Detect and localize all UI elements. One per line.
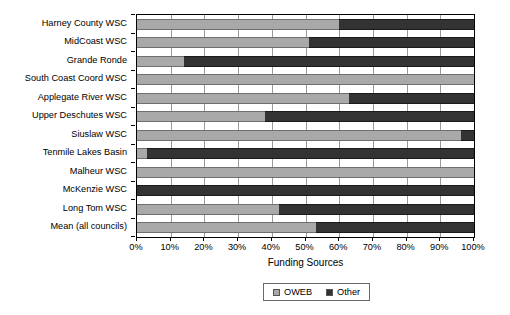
stacked-bar[interactable] — [137, 19, 474, 30]
stacked-bar[interactable] — [137, 185, 474, 196]
stacked-bar[interactable] — [137, 56, 474, 67]
y-axis-tick — [131, 88, 135, 89]
bar-segment-oweb[interactable] — [137, 204, 279, 215]
x-axis-tick-label: 10% — [160, 241, 178, 253]
bar-segment-oweb[interactable] — [137, 148, 147, 159]
plot-area — [136, 14, 475, 238]
y-axis-tick — [131, 14, 135, 15]
x-axis-tick-label: 60% — [329, 241, 347, 253]
x-axis-tick-label: 0% — [129, 241, 142, 253]
y-axis-tick — [131, 144, 135, 145]
y-axis-tick — [131, 33, 135, 34]
legend-swatch-icon-oweb — [273, 289, 280, 296]
x-axis-title: Funding Sources — [136, 257, 475, 268]
bar-rows — [137, 15, 474, 237]
bar-segment-oweb[interactable] — [137, 167, 474, 178]
legend-label-oweb: OWEB — [284, 287, 312, 297]
y-axis-tick — [131, 218, 135, 219]
bar-segment-other[interactable] — [316, 222, 474, 233]
bar-row — [137, 219, 474, 238]
bar-segment-other[interactable] — [309, 37, 474, 48]
category-label: Upper Deschutes WSC — [0, 107, 132, 126]
bar-row — [137, 89, 474, 108]
category-label: South Coast Coord WSC — [0, 70, 132, 89]
bar-row — [137, 71, 474, 90]
bar-segment-oweb[interactable] — [137, 56, 184, 67]
x-axis-tick-label: 20% — [194, 241, 212, 253]
x-axis-tick-label: 80% — [396, 241, 414, 253]
y-axis-tick — [131, 236, 135, 237]
bar-segment-oweb[interactable] — [137, 130, 461, 141]
bar-segment-other[interactable] — [137, 185, 474, 196]
category-label: Tenmile Lakes Basin — [0, 144, 132, 163]
bar-row — [137, 108, 474, 127]
y-axis-tick — [131, 70, 135, 71]
bar-segment-oweb[interactable] — [137, 222, 316, 233]
y-axis-tick — [131, 51, 135, 52]
bar-segment-oweb[interactable] — [137, 93, 349, 104]
bar-row — [137, 126, 474, 145]
bar-row — [137, 200, 474, 219]
stacked-bar[interactable] — [137, 204, 474, 215]
bar-segment-oweb[interactable] — [137, 111, 265, 122]
y-axis-tick — [131, 181, 135, 182]
stacked-bar[interactable] — [137, 148, 474, 159]
bar-row — [137, 15, 474, 34]
stacked-bar[interactable] — [137, 74, 474, 85]
x-axis-tick-label: 70% — [363, 241, 381, 253]
bar-segment-oweb[interactable] — [137, 37, 309, 48]
stacked-bar[interactable] — [137, 130, 474, 141]
legend-item-oweb: OWEB — [273, 287, 312, 297]
category-label: Malheur WSC — [0, 162, 132, 181]
bar-row — [137, 52, 474, 71]
bar-segment-other[interactable] — [265, 111, 474, 122]
bar-segment-other[interactable] — [147, 148, 474, 159]
y-axis-tick — [131, 107, 135, 108]
bar-segment-oweb[interactable] — [137, 19, 339, 30]
x-axis-tick-label: 40% — [262, 241, 280, 253]
stacked-bar[interactable] — [137, 222, 474, 233]
y-axis-tick — [131, 125, 135, 126]
stacked-bar[interactable] — [137, 167, 474, 178]
bar-row — [137, 163, 474, 182]
category-axis-labels: Harney County WSC MidCoast WSC Grande Ro… — [0, 14, 132, 236]
bar-segment-other[interactable] — [461, 130, 474, 141]
y-axis-tick — [131, 162, 135, 163]
bar-row — [137, 145, 474, 164]
x-axis-tick-label: 50% — [295, 241, 313, 253]
stacked-bar-chart: Harney County WSC MidCoast WSC Grande Ro… — [0, 0, 510, 315]
bar-segment-other[interactable] — [339, 19, 474, 30]
legend-item-other: Other — [326, 287, 360, 297]
category-label: Mean (all councils) — [0, 218, 132, 237]
bar-segment-oweb[interactable] — [137, 74, 474, 85]
stacked-bar[interactable] — [137, 93, 474, 104]
category-label: Harney County WSC — [0, 14, 132, 33]
stacked-bar[interactable] — [137, 111, 474, 122]
x-axis-tick-label: 30% — [228, 241, 246, 253]
category-label: Grande Ronde — [0, 51, 132, 70]
legend-label-other: Other — [337, 287, 360, 297]
x-axis-tick-label: 90% — [430, 241, 448, 253]
bar-row — [137, 182, 474, 201]
category-label: McKenzie WSC — [0, 181, 132, 200]
category-label: MidCoast WSC — [0, 33, 132, 52]
category-label: Siuslaw WSC — [0, 125, 132, 144]
bar-row — [137, 34, 474, 53]
bar-segment-other[interactable] — [184, 56, 474, 67]
x-axis-tick-label: 100% — [461, 241, 485, 253]
stacked-bar[interactable] — [137, 37, 474, 48]
legend: OWEB Other — [263, 283, 370, 301]
legend-swatch-icon-other — [326, 289, 333, 296]
bar-segment-other[interactable] — [349, 93, 474, 104]
category-label: Long Tom WSC — [0, 199, 132, 218]
category-label: Applegate River WSC — [0, 88, 132, 107]
x-axis-tick-labels: 0%10%20%30%40%50%60%70%80%90%100% — [0, 241, 510, 255]
bar-segment-other[interactable] — [279, 204, 474, 215]
y-axis-tick — [131, 199, 135, 200]
